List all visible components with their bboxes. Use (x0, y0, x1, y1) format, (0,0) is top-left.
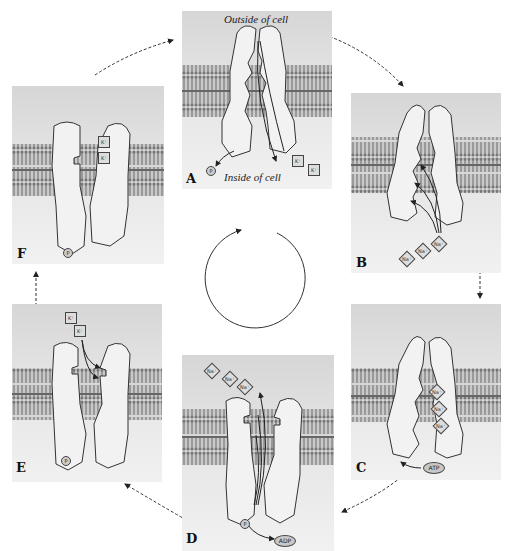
panel-label-e: E (16, 460, 26, 475)
k-ion-icon: K⁺ (74, 325, 86, 337)
phosphate-icon: P (63, 248, 73, 258)
panel-label-a: A (186, 171, 196, 186)
panel-f: K⁺ K⁺ P F (12, 86, 164, 264)
center-cycle-arrow-icon (205, 230, 305, 328)
k-ion-icon: K⁺ (292, 155, 304, 167)
phosphate-icon: P (61, 456, 71, 466)
panel-d: Na⁺ Na⁺ Na⁺ P ADP D (182, 355, 334, 551)
arrow-f-to-a (95, 40, 173, 75)
panel-label-f: F (17, 246, 26, 261)
panel-c: Na⁺ Na⁺ Na⁺ ATP C (351, 304, 501, 480)
panel-label-b: B (356, 255, 367, 270)
k-ion-icon: K⁺ (308, 164, 320, 176)
panel-label-d: D (186, 531, 197, 546)
panel-e: K⁺ K⁺ P E (12, 304, 162, 482)
panel-a: Outside of cell Inside of cell P K⁺ K⁺ A (182, 11, 332, 189)
phosphate-icon: P (206, 166, 216, 176)
inside-of-cell-caption: Inside of cell (224, 171, 281, 183)
pump-k-bound-graphic (12, 86, 164, 264)
k-ion-icon: K⁺ (65, 312, 77, 324)
pump-open-outside-graphic (182, 355, 334, 551)
adp-molecule-icon: ADP (274, 535, 296, 547)
panel-label-c: C (356, 460, 366, 475)
phosphate-icon: P (240, 519, 250, 529)
pump-na-bound-atp-graphic (351, 304, 501, 480)
panel-b: Na⁺ Na⁺ Na⁺ B (351, 93, 501, 273)
atp-molecule-icon: ATP (423, 462, 445, 474)
k-ion-icon: K⁺ (98, 136, 110, 148)
pump-open-inside-graphic (182, 11, 332, 189)
arrow-a-to-b (320, 33, 403, 86)
outside-of-cell-caption: Outside of cell (224, 13, 288, 25)
k-ion-icon: K⁺ (98, 152, 110, 164)
pump-k-binding-graphic (12, 304, 162, 482)
